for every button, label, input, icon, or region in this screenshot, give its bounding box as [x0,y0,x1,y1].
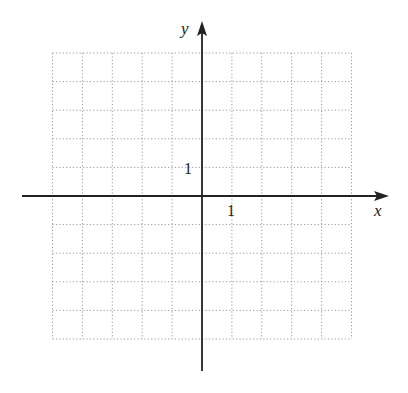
y-axis-label: y [179,19,189,38]
x-unit-label: 1 [227,202,235,219]
coordinate-plane: y x 1 1 [0,0,408,393]
y-unit-label: 1 [184,160,192,177]
x-axis-label: x [373,201,382,220]
